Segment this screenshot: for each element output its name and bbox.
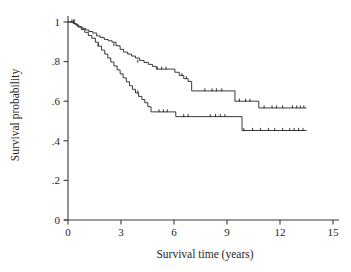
y-tick-label: .4 — [52, 135, 61, 147]
survival-curve-upper-curve — [68, 22, 307, 108]
y-tick-label: .8 — [52, 55, 61, 67]
y-axis: 0.2.4.6.81 — [52, 16, 68, 226]
survival-plot-figure: 0.2.4.6.81 03691215 Survival time (years… — [0, 0, 351, 272]
y-tick-label: .6 — [52, 95, 61, 107]
y-tick-label: 1 — [55, 16, 61, 28]
x-tick-label: 12 — [275, 226, 286, 238]
x-tick-label: 3 — [118, 226, 124, 238]
x-axis-tick-labels: 03691215 — [65, 226, 339, 238]
kaplan-meier-chart: 0.2.4.6.81 03691215 Survival time (years… — [0, 0, 351, 272]
x-tick-label: 9 — [224, 226, 230, 238]
censoring-marks — [72, 19, 304, 131]
x-axis-ticks — [68, 220, 333, 225]
x-tick-label: 0 — [65, 226, 71, 238]
y-tick-label: 0 — [55, 214, 61, 226]
x-axis-title: Survival time (years) — [156, 248, 253, 261]
y-axis-ticks — [64, 22, 69, 220]
y-tick-label: .2 — [52, 174, 60, 186]
y-axis-tick-labels: 0.2.4.6.81 — [52, 16, 61, 226]
x-axis: 03691215 — [64, 220, 339, 238]
y-axis-title: Survival probability — [9, 69, 22, 162]
x-tick-label: 15 — [328, 226, 340, 238]
x-tick-label: 6 — [171, 226, 177, 238]
survival-curves — [68, 22, 307, 131]
